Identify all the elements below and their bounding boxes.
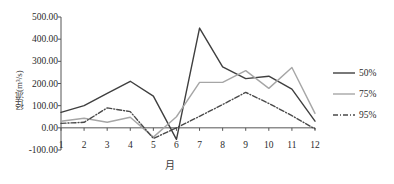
x-tick-label: 8 [215, 140, 231, 151]
x-tick-label: 12 [307, 140, 323, 151]
legend-swatch-75 [333, 89, 355, 99]
x-tick-label: 11 [284, 140, 300, 151]
legend-item-50[interactable]: 50% [333, 62, 393, 83]
chart-legend: 50% 75% 95% [333, 62, 393, 125]
legend-label-75: 75% [359, 89, 376, 99]
x-tick-label: 6 [168, 140, 184, 151]
legend-swatch-50 [333, 68, 355, 78]
x-tick-label: 5 [145, 140, 161, 151]
runoff-line-chart: 径流(m³/s) -100.000.00100.00200.00300.0040… [0, 0, 394, 184]
x-tick-label: 10 [261, 140, 277, 151]
x-tick-label: 2 [76, 140, 92, 151]
x-tick-label: 9 [238, 140, 254, 151]
legend-item-75[interactable]: 75% [333, 83, 393, 104]
legend-item-95[interactable]: 95% [333, 104, 393, 125]
series-line-75pct [61, 68, 315, 138]
x-tick-label: 3 [99, 140, 115, 151]
legend-swatch-95 [333, 110, 355, 120]
x-tick-label: 1 [53, 140, 69, 151]
x-tick-label: 4 [122, 140, 138, 151]
legend-label-50: 50% [359, 68, 376, 78]
legend-label-95: 95% [359, 110, 376, 120]
series-lines [61, 28, 315, 139]
x-tick-label: 7 [192, 140, 208, 151]
